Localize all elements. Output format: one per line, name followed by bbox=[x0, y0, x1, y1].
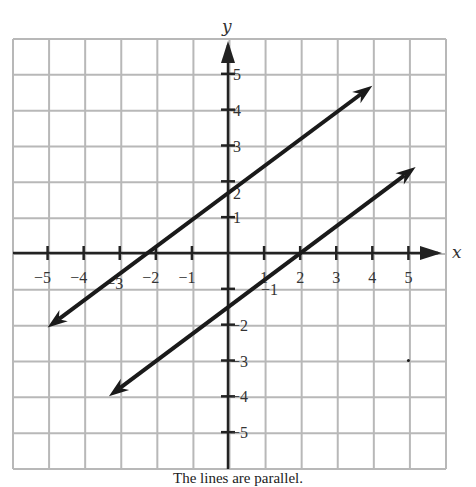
x-tick-label: −5 bbox=[34, 269, 51, 286]
y-tick-label: −1 bbox=[261, 281, 278, 298]
stray-dot bbox=[407, 359, 410, 362]
y-tick-label: −4 bbox=[231, 388, 248, 405]
plotted-line bbox=[120, 175, 404, 388]
y-tick-label: 3 bbox=[233, 138, 241, 155]
chart-caption: The lines are parallel. bbox=[0, 470, 476, 487]
x-tick-label: −1 bbox=[178, 269, 195, 286]
y-tick-label: −5 bbox=[231, 424, 248, 441]
x-tick-label: 3 bbox=[332, 269, 340, 286]
x-tick-label: −2 bbox=[142, 269, 159, 286]
x-axis-label: x bbox=[452, 242, 462, 262]
x-tick-label: −4 bbox=[70, 269, 87, 286]
x-tick-label: 4 bbox=[368, 269, 376, 286]
y-axis-label: y bbox=[221, 16, 232, 36]
y-tick-label: −2 bbox=[231, 317, 248, 334]
x-tick-label: 2 bbox=[296, 269, 304, 286]
y-tick-label: 1 bbox=[233, 209, 241, 226]
y-axis-arrow-icon bbox=[221, 41, 235, 63]
coordinate-plane: −5−4−3−2−112345−5−4−3−2−112345 x y bbox=[0, 0, 476, 470]
x-axis-arrow-icon bbox=[420, 246, 442, 260]
plotted-line bbox=[59, 94, 361, 319]
y-tick-label: 4 bbox=[233, 102, 241, 119]
y-tick-label: −3 bbox=[231, 353, 248, 370]
plotted-lines bbox=[48, 86, 416, 397]
x-tick-label: 5 bbox=[404, 269, 412, 286]
y-tick-label: 5 bbox=[233, 66, 241, 83]
